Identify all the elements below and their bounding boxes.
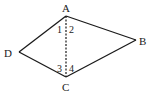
- vertex-label-c: C: [62, 81, 69, 93]
- edge-ab: [66, 16, 136, 40]
- angle-label-2: 2: [69, 24, 74, 35]
- vertex-label-a: A: [62, 2, 70, 14]
- vertex-label-b: B: [139, 35, 146, 47]
- quadrilateral-abcd: [19, 16, 136, 77]
- kite-diagram: A B C D 1 2 3 4: [0, 0, 152, 95]
- edge-bc: [66, 40, 136, 77]
- angle-label-3: 3: [57, 63, 62, 74]
- vertex-label-d: D: [4, 47, 12, 59]
- angle-label-4: 4: [69, 63, 74, 74]
- angle-label-1: 1: [57, 24, 62, 35]
